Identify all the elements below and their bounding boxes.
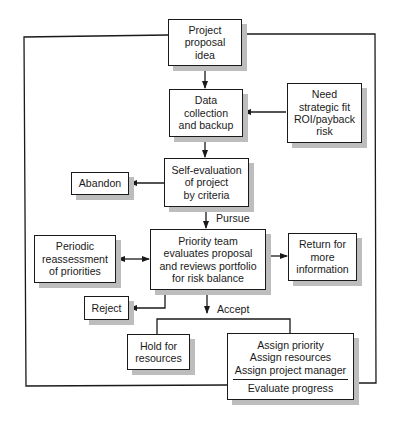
node-text: Reject	[91, 302, 121, 314]
node-text: Data	[195, 94, 217, 106]
node-text: and backup	[179, 119, 234, 131]
node-self-evaluation: Self-evaluation of project by criteria	[164, 158, 249, 207]
node-text: information	[296, 263, 348, 275]
node-text: more	[310, 251, 334, 263]
node-text: collection	[184, 107, 228, 119]
node-text: Periodic	[56, 240, 94, 252]
node-text: Assign resources	[250, 351, 331, 363]
node-periodic-reassessment: Periodic reassessment of priorities	[34, 235, 116, 283]
node-text: ROI/payback	[294, 113, 355, 125]
node-text: reassessment	[42, 253, 108, 265]
node-text: and reviews portfolio	[159, 260, 256, 272]
node-text: for risk balance	[172, 272, 244, 284]
node-text: resources	[135, 352, 182, 364]
node-text: Priority team	[178, 235, 237, 247]
node-text: Abandon	[79, 177, 121, 189]
node-reject: Reject	[84, 296, 129, 320]
edge-label-accept: Accept	[217, 303, 249, 315]
node-text: strategic fit	[299, 101, 350, 113]
node-abandon: Abandon	[71, 172, 129, 195]
node-text: idea	[195, 49, 215, 61]
node-text: Project	[189, 24, 222, 36]
node-text: proposal	[185, 36, 226, 48]
node-text: Evaluate progress	[248, 382, 333, 394]
node-text: of project	[185, 176, 229, 188]
node-text: Assign priority	[257, 339, 324, 351]
node-text: risk	[316, 125, 332, 137]
node-data-collection: Data collection and backup	[169, 89, 243, 137]
node-hold-for-resources: Hold for resources	[127, 334, 190, 370]
node-assign: Assign priority Assign resources Assign …	[227, 333, 354, 400]
node-text: Self-evaluation	[171, 164, 241, 176]
divider	[233, 379, 348, 380]
node-text: Assign project manager	[235, 364, 346, 376]
node-text: Need	[312, 88, 337, 100]
node-return-for-information: Return for more information	[288, 233, 357, 281]
node-text: Return for	[299, 238, 346, 250]
node-text: of priorities	[49, 265, 101, 277]
node-project-proposal-idea: Project proposal idea	[168, 19, 242, 66]
node-text: evaluates proposal	[164, 247, 253, 259]
node-need-strategic-fit: Need strategic fit ROI/payback risk	[287, 83, 362, 143]
node-text: by criteria	[184, 189, 230, 201]
node-text: Hold for	[140, 340, 177, 352]
edge-label-pursue: Pursue	[216, 212, 250, 224]
node-priority-team: Priority team evaluates proposal and rev…	[150, 229, 266, 290]
